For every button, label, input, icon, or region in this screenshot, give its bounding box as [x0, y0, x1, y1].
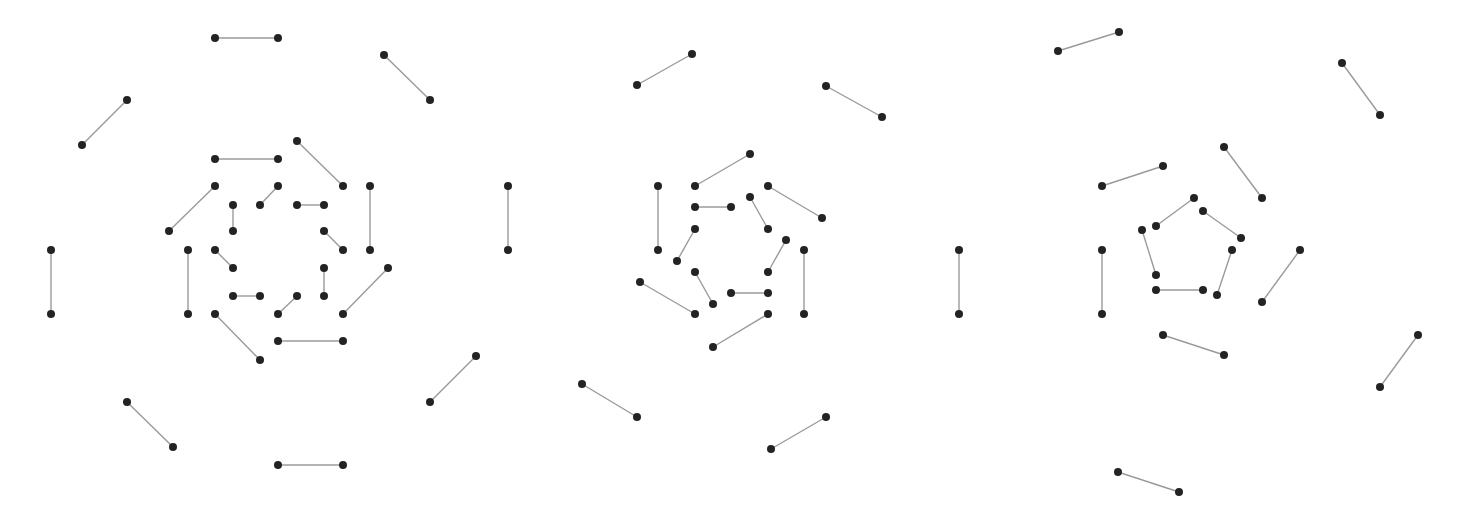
edge-line [637, 54, 692, 85]
graph-edge [256, 182, 282, 209]
graph-node [47, 310, 55, 318]
graph-edge [123, 398, 177, 451]
graph-node [1258, 298, 1266, 306]
graph-node [691, 182, 699, 190]
graph-node [274, 310, 282, 318]
graph-node [256, 292, 264, 300]
graph-edge [764, 236, 790, 276]
graph-edge [727, 289, 772, 297]
graph-edge [380, 51, 434, 104]
graph-edge [320, 227, 347, 254]
graph-node [764, 289, 772, 297]
edge-line [695, 154, 750, 186]
graph-edge [274, 461, 347, 469]
graph-node [691, 225, 699, 233]
graph-edge [1098, 246, 1106, 318]
graph-edge [229, 201, 237, 235]
graph-node [320, 264, 328, 272]
graph-node [1228, 246, 1236, 254]
graph-edge [1376, 331, 1422, 391]
graph-edge [1098, 162, 1167, 190]
edge-line [826, 86, 882, 117]
graph-node [1414, 331, 1422, 339]
graph-node [764, 225, 772, 233]
edge-line [324, 231, 343, 250]
graph-node [229, 292, 237, 300]
graph-node [800, 310, 808, 318]
graph-node [818, 214, 826, 222]
graph-node [1054, 47, 1062, 55]
graph-edge [211, 34, 282, 42]
edge-line [1118, 472, 1179, 492]
edge-line [1058, 32, 1119, 51]
graph-node [256, 201, 264, 209]
graph-edge [633, 50, 696, 89]
graph-edge [504, 182, 512, 254]
graph-node [366, 182, 374, 190]
graph-node [339, 461, 347, 469]
edge-line [1262, 250, 1300, 302]
graph-edge [1152, 194, 1198, 230]
graph-edge [211, 155, 282, 163]
graph-edge [293, 201, 328, 209]
graph-node [1115, 28, 1123, 36]
edge-line [768, 186, 822, 218]
graph-node [633, 81, 641, 89]
graph-node [1138, 226, 1146, 234]
graph-node [1098, 246, 1106, 254]
graph-node [1114, 468, 1122, 476]
graph-edge [293, 137, 347, 190]
graph-edge [1159, 331, 1228, 359]
graph-node [339, 246, 347, 254]
edge-line [695, 272, 713, 304]
graph-edge [673, 225, 699, 265]
edge-line [215, 314, 260, 360]
graph-node [1159, 331, 1167, 339]
edge-line [768, 240, 786, 272]
graph-node [211, 246, 219, 254]
graph-edge [1338, 59, 1384, 119]
graph-node [320, 292, 328, 300]
edge-line [430, 356, 476, 402]
graph-edge [229, 292, 264, 300]
edge-line [582, 384, 637, 417]
graph-edge [1054, 28, 1123, 55]
matching-graph-octagonal [47, 34, 512, 469]
graph-node [274, 155, 282, 163]
graph-node [1190, 194, 1198, 202]
graph-node [1175, 488, 1183, 496]
graph-node [578, 380, 586, 388]
edge-line [677, 229, 695, 261]
graph-node [184, 310, 192, 318]
graph-node [165, 227, 173, 235]
graph-node [688, 50, 696, 58]
graph-node [504, 246, 512, 254]
graph-node [123, 398, 131, 406]
graph-node [955, 310, 963, 318]
graph-edge [184, 246, 192, 318]
graph-node [78, 141, 86, 149]
edge-line [343, 268, 388, 314]
edge-line [1156, 198, 1194, 226]
graph-node [1376, 383, 1384, 391]
edge-line [640, 282, 695, 314]
graph-edge [1258, 246, 1304, 306]
graph-node [1152, 222, 1160, 230]
graph-node [229, 201, 237, 209]
graph-edge [800, 246, 808, 318]
graph-node [1376, 111, 1384, 119]
graph-node [339, 310, 347, 318]
graph-edge [78, 96, 131, 149]
graph-node [211, 155, 219, 163]
graph-edge [709, 310, 772, 351]
graph-node [1213, 291, 1221, 299]
graph-node [1220, 143, 1228, 151]
graph-edge [578, 380, 641, 421]
graph-node [764, 268, 772, 276]
graph-node [426, 96, 434, 104]
graph-node [426, 398, 434, 406]
graph-edge [691, 150, 754, 190]
graph-node [169, 443, 177, 451]
graph-node [709, 343, 717, 351]
graph-node [727, 203, 735, 211]
